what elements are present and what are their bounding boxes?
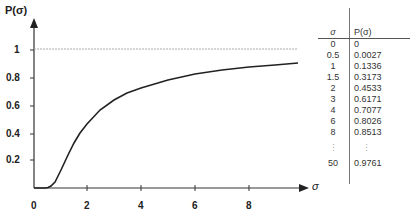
table-row: 00 — [318, 39, 410, 50]
x-tick-label-2: 2 — [84, 200, 90, 211]
cell-sigma: 0.5 — [318, 50, 348, 61]
x-axis-arrow-icon — [299, 184, 309, 192]
cell-p: 0 — [348, 39, 410, 50]
x-tick-label-0: 0 — [31, 200, 37, 211]
cell-p: 0.0027 — [348, 50, 410, 61]
x-tick-label-8: 8 — [246, 200, 252, 211]
table-row: 20.4533 — [318, 83, 410, 94]
y-tick-label-0.8: 0.8 — [6, 72, 20, 83]
table-row: 30.6171 — [318, 94, 410, 105]
x-axis-label: σ — [312, 180, 319, 192]
header-sigma: σ — [318, 26, 348, 38]
cell-p: 0.6171 — [348, 94, 410, 105]
cell-p: ⋮ — [348, 138, 410, 158]
cell-p: 0.1336 — [348, 61, 410, 72]
cell-sigma: 2 — [318, 83, 348, 94]
cell-sigma: 4 — [318, 105, 348, 116]
cell-p: 0.9761 — [348, 158, 410, 169]
cell-sigma: 1.5 — [318, 72, 348, 83]
table-row: 80.8513 — [318, 127, 410, 138]
table-row-ellipsis: ⋮⋮ — [318, 138, 410, 158]
y-tick-label-1: 1 — [14, 44, 20, 55]
table-row: 10.1336 — [318, 61, 410, 72]
y-axis-label: P(σ) — [5, 4, 27, 16]
cell-sigma: 6 — [318, 116, 348, 127]
cell-p: 0.4533 — [348, 83, 410, 94]
cell-p: 0.7077 — [348, 105, 410, 116]
table-row: 500.9761 — [318, 158, 410, 169]
values-table: σ P(σ) 00 0.50.0027 10.1336 1.50.3173 20… — [318, 26, 410, 169]
y-tick-label-0.4: 0.4 — [6, 128, 20, 139]
p-sigma-curve — [34, 63, 298, 188]
cell-p: 0.8513 — [348, 127, 410, 138]
cell-sigma: 50 — [318, 158, 348, 169]
table-row: 60.8026 — [318, 116, 410, 127]
table-row: 1.50.3173 — [318, 72, 410, 83]
x-tick-label-6: 6 — [192, 200, 198, 211]
table-header: σ P(σ) — [318, 26, 410, 39]
cell-p: 0.8026 — [348, 116, 410, 127]
cell-p: 0.3173 — [348, 72, 410, 83]
cell-sigma: ⋮ — [318, 138, 348, 158]
y-tick-label-0.2: 0.2 — [6, 154, 20, 165]
x-tick-label-4: 4 — [138, 200, 144, 211]
table-row: 40.7077 — [318, 105, 410, 116]
cell-sigma: 0 — [318, 39, 348, 50]
cell-sigma: 1 — [318, 61, 348, 72]
cell-sigma: 3 — [318, 94, 348, 105]
y-tick-label-0.6: 0.6 — [6, 100, 20, 111]
y-axis-arrow-icon — [30, 18, 38, 28]
header-p-sigma: P(σ) — [348, 26, 410, 38]
table-row: 0.50.0027 — [318, 50, 410, 61]
cell-sigma: 8 — [318, 127, 348, 138]
